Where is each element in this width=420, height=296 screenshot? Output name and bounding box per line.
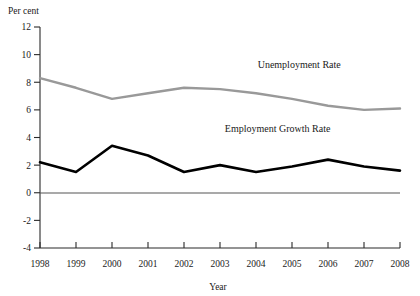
x-axis-title: Year bbox=[209, 282, 227, 292]
y-tick-label: -2 bbox=[23, 216, 31, 226]
y-tick-label: 8 bbox=[26, 78, 31, 88]
y-axis-tick-labels: 121086420-2-4 bbox=[22, 22, 32, 253]
x-tick-label: 2003 bbox=[211, 259, 230, 269]
x-tick-label: 2007 bbox=[355, 259, 374, 269]
y-tick-label: 4 bbox=[26, 133, 31, 143]
y-tick-label: -4 bbox=[23, 243, 31, 253]
y-axis-title: Per cent bbox=[8, 6, 39, 16]
series-line-employment-growth-rate bbox=[40, 146, 400, 172]
y-tick-label: 10 bbox=[22, 50, 32, 60]
line-chart-svg: Per cent 121086420-2-4 19981999200020012… bbox=[0, 0, 420, 296]
y-tick-label: 0 bbox=[26, 188, 31, 198]
series-label-unemployment-rate: Unemployment Rate bbox=[258, 59, 342, 70]
x-tick-label: 2008 bbox=[391, 259, 410, 269]
x-tick-label: 2005 bbox=[283, 259, 302, 269]
x-tick-label: 2001 bbox=[139, 259, 158, 269]
x-tick-label: 2006 bbox=[319, 259, 338, 269]
y-tick-label: 12 bbox=[22, 22, 32, 32]
x-axis-tick-labels: 1998199920002001200220032004200520062007… bbox=[31, 259, 410, 269]
x-tick-label: 1998 bbox=[31, 259, 50, 269]
y-axis-tick-marks bbox=[34, 27, 40, 248]
x-tick-label: 2002 bbox=[175, 259, 194, 269]
series-line-unemployment-rate bbox=[40, 78, 400, 110]
x-tick-label: 2000 bbox=[103, 259, 122, 269]
series-label-employment-growth-rate: Employment Growth Rate bbox=[225, 123, 331, 134]
chart-container: Per cent 121086420-2-4 19981999200020012… bbox=[0, 0, 420, 296]
x-tick-label: 1999 bbox=[67, 259, 86, 269]
y-tick-label: 6 bbox=[26, 105, 31, 115]
x-axis-tick-marks bbox=[40, 242, 400, 248]
x-tick-label: 2004 bbox=[247, 259, 266, 269]
y-tick-label: 2 bbox=[26, 161, 31, 171]
